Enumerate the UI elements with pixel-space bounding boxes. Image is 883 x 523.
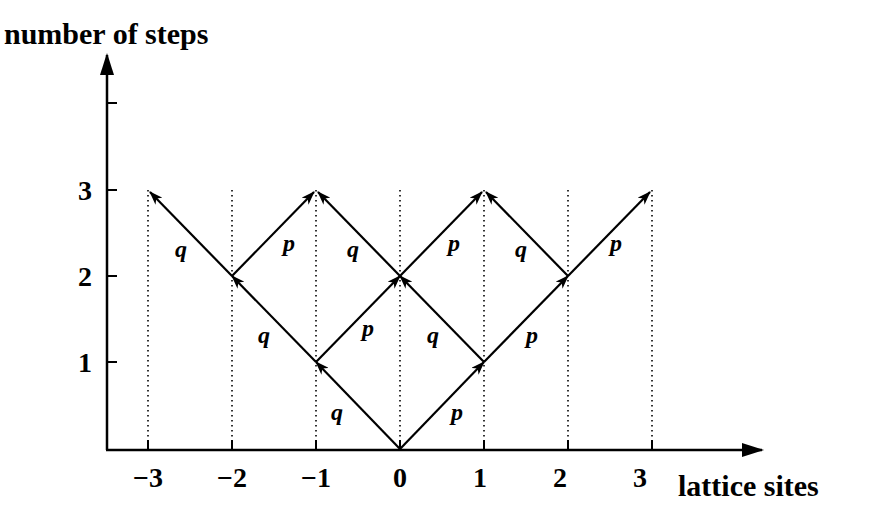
y-axis-title: number of steps (4, 17, 208, 50)
x-tick-3: 3 (633, 462, 647, 493)
x-axis-title: lattice sites (678, 469, 819, 502)
y-axis (107, 55, 117, 450)
y-tick-1: 1 (78, 347, 92, 378)
x-tick-neg1: −1 (301, 462, 331, 493)
edge-arrow-right (316, 276, 400, 362)
edge-label-p: p (449, 399, 463, 425)
random-walk-lattice-diagram: number of steps lattice sites 1 2 3 (0, 0, 883, 523)
x-tick-0: 0 (393, 462, 407, 493)
edge-arrow-left (316, 362, 400, 449)
edge-arrow-left (150, 192, 232, 276)
x-tick-neg2: −2 (217, 462, 247, 493)
edge-label-p: p (608, 230, 622, 256)
edge-label-q: q (427, 322, 439, 348)
edge-arrow-right (568, 192, 650, 276)
y-tick-3: 3 (78, 175, 92, 206)
x-tick-1: 1 (473, 462, 487, 493)
edge-arrow-left (232, 276, 316, 362)
edge-label-p: p (360, 315, 374, 341)
edge-label-p: p (281, 230, 295, 256)
edge-arrow-left (486, 192, 568, 276)
edge-label-q: q (258, 322, 270, 348)
edge-label-q: q (515, 236, 527, 262)
edge-label-p: p (524, 322, 538, 348)
x-tick-2: 2 (553, 462, 567, 493)
edge-label-p: p (446, 230, 460, 256)
y-tick-2: 2 (78, 261, 92, 292)
edge-arrow-left (400, 276, 484, 362)
gridlines (148, 190, 652, 449)
edge-arrow-right (400, 192, 482, 276)
edge-label-q: q (331, 399, 343, 425)
edge-arrow-right (400, 362, 484, 449)
edge-arrow-right (484, 276, 568, 362)
edge-label-q: q (175, 236, 187, 262)
edge-label-q: q (347, 236, 359, 262)
edge-labels: q p q p q p q p q p q p (175, 230, 622, 425)
edge-arrow-right (232, 192, 314, 276)
x-tick-neg3: −3 (133, 462, 163, 493)
x-axis (106, 440, 762, 450)
edge-arrow-left (318, 192, 400, 276)
